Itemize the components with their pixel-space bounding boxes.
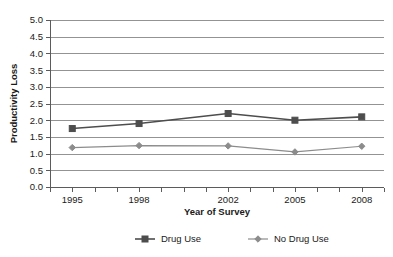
x-tick-label-1998: 1998 [128, 194, 149, 205]
y-tick-label-4.0: 4.0 [30, 48, 43, 59]
chart-background [0, 0, 393, 257]
series-drug-use-point-2005-marker-square [292, 117, 298, 123]
y-tick-label-3.5: 3.5 [30, 65, 43, 76]
series-drug-use-point-1998-marker-square [136, 121, 142, 127]
series-drug-use-point-2008-marker-square [359, 114, 365, 120]
y-tick-label-4.5: 4.5 [30, 31, 43, 42]
y-tick-labels-group: 0.00.51.01.52.02.53.03.54.04.55.0 [30, 14, 43, 192]
x-tick-label-1995: 1995 [62, 194, 83, 205]
productivity-loss-line-chart: 0.00.51.01.52.02.53.03.54.04.55.0 199519… [0, 0, 393, 257]
series-drug-use-point-2002-marker-square [225, 111, 231, 117]
chart-figure: 0.00.51.01.52.02.53.03.54.04.55.0 199519… [0, 0, 393, 257]
y-tick-label-5.0: 5.0 [30, 14, 43, 25]
y-tick-label-1.0: 1.0 [30, 148, 43, 159]
x-tick-label-2008: 2008 [351, 194, 372, 205]
y-tick-label-1.5: 1.5 [30, 131, 43, 142]
legend-drug-use-marker-square [142, 236, 148, 242]
x-tick-label-2005: 2005 [284, 194, 305, 205]
y-tick-label-2.0: 2.0 [30, 115, 43, 126]
x-axis-title: Year of Survey [184, 206, 251, 217]
y-axis-title: Productivity Loss [8, 64, 19, 144]
y-tick-label-3.0: 3.0 [30, 81, 43, 92]
series-drug-use-point-1995-marker-square [69, 126, 75, 132]
y-tick-label-2.5: 2.5 [30, 98, 43, 109]
legend-label-drug-use: Drug Use [161, 233, 201, 244]
x-tick-label-2002: 2002 [218, 194, 239, 205]
legend-label-no-drug-use: No Drug Use [274, 233, 329, 244]
y-tick-label-0.0: 0.0 [30, 181, 43, 192]
y-tick-label-0.5: 0.5 [30, 165, 43, 176]
